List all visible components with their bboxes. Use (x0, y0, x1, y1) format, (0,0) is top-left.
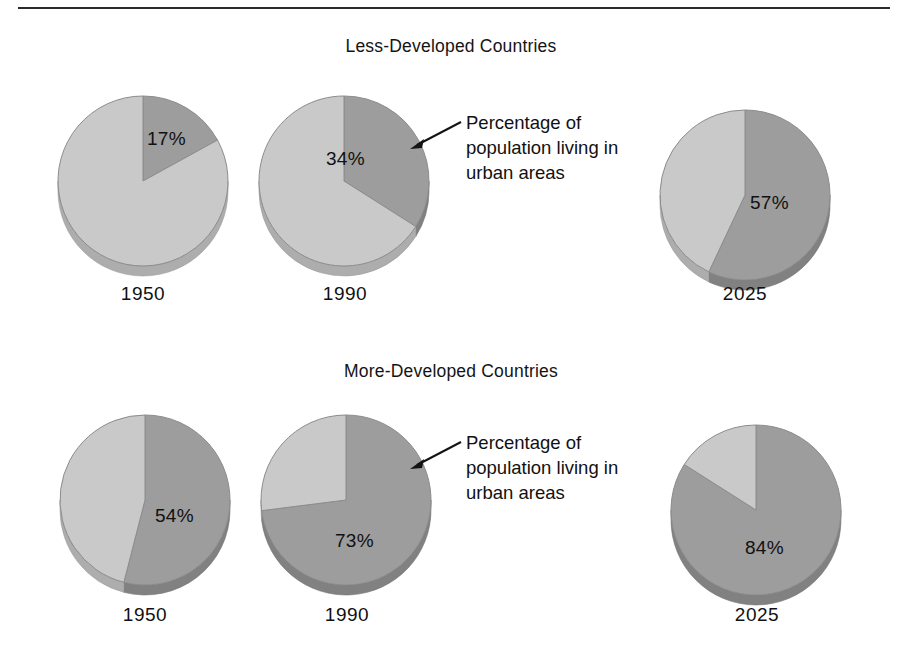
pie-svg-more-1950 (57, 412, 233, 602)
pie-svg-less-1950 (55, 93, 231, 283)
callout-line-3: urban areas (466, 160, 618, 185)
callout-line-3: urban areas (466, 480, 618, 505)
year-label-less-1950: 1950 (98, 283, 188, 305)
year-label-more-2025: 2025 (712, 604, 802, 626)
pie-chart-less-1950 (55, 93, 231, 283)
pie-slice-rural (261, 415, 346, 511)
pie-value-label-less-2025: 57% (750, 192, 789, 214)
year-label-less-1990: 1990 (300, 283, 390, 305)
year-label-less-2025: 2025 (700, 283, 790, 305)
callout-line-2: population living in (466, 455, 618, 480)
pie-value-label-more-1990: 73% (335, 530, 374, 552)
year-label-more-1950: 1950 (100, 604, 190, 626)
pie-value-label-less-1950: 17% (147, 128, 186, 150)
panel-title-less-developed: Less-Developed Countries (0, 36, 902, 57)
pie-chart-more-1950 (57, 412, 233, 602)
pie-value-label-more-1950: 54% (155, 505, 194, 527)
pie-value-label-less-1990: 34% (326, 148, 365, 170)
callout-line-1: Percentage of (466, 430, 618, 455)
callout-text-more: Percentage of population living in urban… (466, 430, 618, 505)
figure-canvas: Less-Developed Countries 17% 1950 34% 19… (0, 0, 902, 669)
pie-value-label-more-2025: 84% (745, 537, 784, 559)
pie-chart-more-2025 (668, 422, 844, 612)
top-divider-rule (18, 7, 890, 9)
callout-arrow-icon-less (406, 118, 466, 158)
callout-line-2: population living in (466, 135, 618, 160)
year-label-more-1990: 1990 (302, 604, 392, 626)
callout-arrow-icon-more (406, 438, 466, 478)
callout-text-less: Percentage of population living in urban… (466, 110, 618, 185)
pie-svg-more-2025 (668, 422, 844, 612)
callout-line-1: Percentage of (466, 110, 618, 135)
pie-svg-less-2025 (657, 107, 833, 297)
pie-chart-less-2025 (657, 107, 833, 297)
panel-title-more-developed: More-Developed Countries (0, 361, 902, 382)
